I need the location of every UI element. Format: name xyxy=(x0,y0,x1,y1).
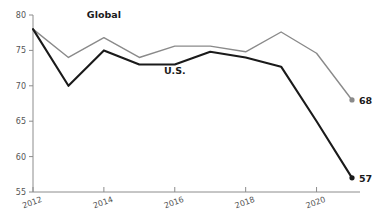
series-endpoint-marker xyxy=(349,97,354,102)
y-tick-label: 80 xyxy=(16,11,26,20)
series-group xyxy=(33,29,355,180)
y-tick-label: 65 xyxy=(16,117,26,126)
x-tick-label: 2014 xyxy=(92,195,114,210)
endpoint-value-label: 68 xyxy=(359,95,373,106)
series-line-us xyxy=(33,29,352,178)
x-tick-label: 2018 xyxy=(234,195,256,210)
y-tick-label: 75 xyxy=(16,46,26,55)
series-name-label-global: Global xyxy=(87,9,121,20)
y-axis: 556065707580 xyxy=(16,11,33,197)
annotation-group: 68Global57U.S. xyxy=(87,9,373,184)
x-tick-label: 2012 xyxy=(21,195,43,210)
y-tick-label: 60 xyxy=(16,153,26,162)
x-axis: 20122014201620182020 xyxy=(21,187,360,210)
series-name-label-us: U.S. xyxy=(164,65,186,76)
x-tick-group: 20122014201620182020 xyxy=(21,187,327,210)
y-tick-label: 70 xyxy=(16,82,26,91)
line-chart: 556065707580 20122014201620182020 68Glob… xyxy=(0,0,379,222)
endpoint-value-label: 57 xyxy=(359,173,372,184)
x-tick-label: 2016 xyxy=(163,195,185,210)
series-line-global xyxy=(33,29,352,100)
chart-canvas: 556065707580 20122014201620182020 68Glob… xyxy=(0,0,379,222)
y-tick-label: 55 xyxy=(16,188,26,197)
x-tick-label: 2020 xyxy=(305,195,327,210)
y-tick-group: 556065707580 xyxy=(16,11,33,197)
series-endpoint-marker xyxy=(349,175,354,180)
